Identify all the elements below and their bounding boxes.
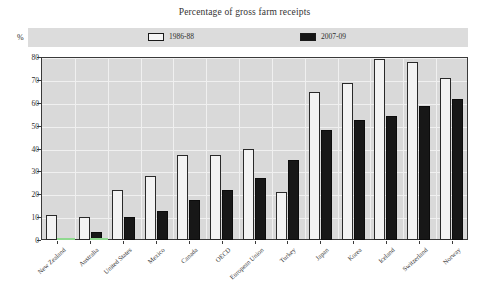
y-tick-mark (37, 171, 41, 172)
y-tick-label: 0 (17, 236, 39, 245)
bar-oecd-1986-88 (210, 155, 221, 240)
y-tick-label: 10 (17, 213, 39, 222)
x-tick-mark (123, 241, 124, 244)
x-tick-label: European Union (228, 246, 265, 281)
bar-group (337, 57, 370, 240)
bar-united-states-2007-09 (124, 217, 135, 240)
x-tick-label: Turkey (278, 246, 297, 264)
legend-item-2007-09: 2007-09 (300, 32, 346, 41)
bar-group (402, 57, 435, 240)
x-tick-label: Switzerland (401, 246, 429, 273)
y-tick-label: 50 (17, 121, 39, 130)
legend-swatch-light-icon (148, 33, 164, 41)
bar-european-union-2007-09 (255, 178, 266, 240)
legend-swatch-dark-icon (300, 33, 316, 41)
bar-canada-2007-09 (189, 200, 200, 240)
bar-canada-1986-88 (177, 155, 188, 240)
x-tick-label: Australia (77, 246, 99, 268)
bar-group (41, 57, 74, 240)
x-tick-mark (255, 241, 256, 244)
y-tick-mark (37, 217, 41, 218)
bar-switzerland-2007-09 (419, 106, 430, 240)
bar-australia-1986-88 (79, 217, 90, 240)
bar-group (107, 57, 140, 240)
x-tick-mark (189, 241, 190, 244)
y-tick-mark (37, 149, 41, 150)
bar-group (238, 57, 271, 240)
bar-european-union-1986-88 (243, 149, 254, 241)
x-tick-label: Mexico (146, 246, 166, 265)
x-tick-label: New Zealand (36, 246, 67, 275)
y-tick-mark (37, 57, 41, 58)
x-tick-mark (287, 241, 288, 244)
legend-label-1986-88: 1986-88 (169, 32, 194, 41)
bar-korea-2007-09 (354, 120, 365, 240)
bar-norway-2007-09 (452, 99, 463, 240)
bar-group (369, 57, 402, 240)
bar-group (140, 57, 173, 240)
baseline-artifact (57, 238, 75, 240)
bar-iceland-1986-88 (374, 59, 385, 240)
bar-switzerland-1986-88 (407, 62, 418, 240)
y-tick-label: 80 (17, 53, 39, 62)
y-axis: 01020304050607080 (13, 57, 39, 240)
bar-korea-1986-88 (342, 83, 353, 240)
x-axis: New ZealandAustraliaUnited StatesMexicoC… (41, 241, 468, 297)
y-tick-mark (37, 126, 41, 127)
x-tick-mark (222, 241, 223, 244)
bar-oecd-2007-09 (222, 190, 233, 240)
x-tick-mark (353, 241, 354, 244)
y-tick-mark (37, 80, 41, 81)
legend-label-2007-09: 2007-09 (321, 32, 346, 41)
y-tick-mark (37, 240, 41, 241)
y-tick-mark (37, 194, 41, 195)
x-tick-mark (452, 241, 453, 244)
y-tick-label: 30 (17, 167, 39, 176)
x-tick-label: Japan (314, 246, 330, 261)
bar-new-zealand-1986-88 (46, 215, 57, 240)
bar-group (205, 57, 238, 240)
baseline-artifact (90, 238, 108, 240)
bar-turkey-1986-88 (276, 192, 287, 240)
bar-turkey-2007-09 (288, 160, 299, 240)
bar-iceland-2007-09 (386, 116, 397, 240)
bar-group (304, 57, 337, 240)
x-tick-label: Korea (346, 246, 363, 262)
bar-mexico-2007-09 (157, 211, 168, 240)
x-tick-mark (419, 241, 420, 244)
bar-group (271, 57, 304, 240)
bar-mexico-1986-88 (145, 176, 156, 240)
x-tick-mark (386, 241, 387, 244)
bar-chart-figure: Percentage of gross farm receipts 1986-8… (0, 0, 489, 297)
x-tick-mark (156, 241, 157, 244)
y-tick-label: 40 (17, 144, 39, 153)
x-tick-mark (320, 241, 321, 244)
bar-japan-1986-88 (309, 92, 320, 240)
bar-japan-2007-09 (321, 130, 332, 240)
bar-group (74, 57, 107, 240)
y-tick-mark (37, 103, 41, 104)
y-tick-label: 60 (17, 98, 39, 107)
bar-group (435, 57, 468, 240)
x-tick-label: Iceland (377, 246, 396, 264)
x-tick-label: United States (102, 246, 133, 275)
chart-legend: 1986-88 2007-09 (28, 28, 468, 47)
y-tick-label: 70 (17, 75, 39, 84)
x-tick-mark (57, 241, 58, 244)
x-tick-label: Canada (180, 246, 199, 265)
bar-norway-1986-88 (440, 78, 451, 240)
bar-united-states-1986-88 (112, 190, 123, 240)
bars-layer (41, 57, 468, 240)
x-tick-label: OECD (214, 246, 232, 263)
y-tick-label: 20 (17, 190, 39, 199)
y-axis-unit-label: % (17, 33, 24, 42)
x-tick-label: Norway (441, 246, 461, 266)
x-tick-mark (90, 241, 91, 244)
chart-title: Percentage of gross farm receipts (0, 7, 489, 17)
bar-group (172, 57, 205, 240)
legend-item-1986-88: 1986-88 (148, 32, 194, 41)
